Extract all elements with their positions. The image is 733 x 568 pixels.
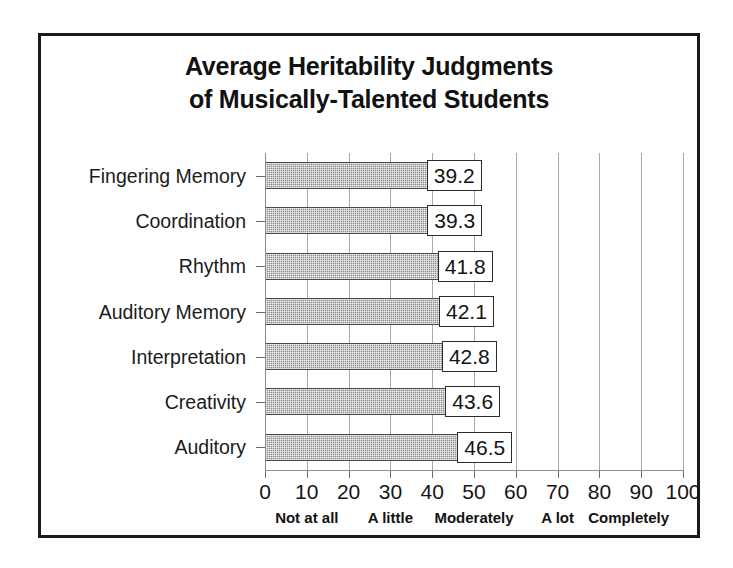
bar-row: 46.5: [265, 425, 683, 470]
anchor-label: A little: [368, 509, 413, 526]
y-axis-tick: [256, 402, 265, 403]
gridline: [683, 153, 684, 470]
y-axis-tick: [256, 266, 265, 267]
category-label: Interpretation: [131, 346, 246, 368]
bar[interactable]: [265, 298, 441, 325]
chart-title-line-1: Average Heritability Judgments: [41, 50, 697, 83]
bar-value-label: 42.1: [439, 296, 494, 327]
y-axis-tick: [256, 357, 265, 358]
x-axis-tick-label: 100: [665, 480, 700, 504]
bar-row: 41.8: [265, 244, 683, 289]
x-axis-tick: [390, 471, 391, 478]
chart-title-line-2: of Musically-Talented Students: [41, 83, 697, 116]
x-axis-tick: [516, 471, 517, 478]
category-label: Auditory Memory: [99, 301, 246, 323]
bar-row: 43.6: [265, 379, 683, 424]
bar[interactable]: [265, 162, 429, 189]
anchor-label: Moderately: [434, 509, 513, 526]
y-axis-line: [265, 153, 266, 471]
x-axis-tick: [558, 471, 559, 478]
bar-value-label: 43.6: [445, 386, 500, 417]
bar[interactable]: [265, 434, 459, 461]
x-axis-tick: [432, 471, 433, 478]
x-axis-tick: [474, 471, 475, 478]
chart-frame: Average Heritability Judgments of Musica…: [38, 33, 700, 538]
x-axis-tick-label: 0: [259, 480, 271, 504]
x-axis-tick-label: 50: [462, 480, 485, 504]
x-axis-tick: [307, 471, 308, 478]
bar-row: 39.2: [265, 153, 683, 198]
bar[interactable]: [265, 253, 440, 280]
bar-value-label: 41.8: [438, 251, 493, 282]
anchor-label: Completely: [588, 509, 669, 526]
bar-row: 39.3: [265, 198, 683, 243]
y-axis-tick: [256, 312, 265, 313]
bar[interactable]: [265, 343, 444, 370]
bar-row: 42.8: [265, 334, 683, 379]
category-label: Creativity: [165, 391, 246, 413]
bar-row: 42.1: [265, 289, 683, 334]
bar-value-label: 42.8: [442, 341, 497, 372]
bar-value-label: 39.3: [427, 205, 482, 236]
anchor-label: Not at all: [275, 509, 338, 526]
category-label: Rhythm: [179, 255, 246, 277]
x-axis-tick-label: 30: [379, 480, 402, 504]
x-axis-tick: [349, 471, 350, 478]
x-axis-tick-label: 70: [546, 480, 569, 504]
x-axis-tick: [265, 471, 266, 478]
x-axis-tick-label: 60: [504, 480, 527, 504]
bar[interactable]: [265, 207, 429, 234]
plot-area: 39.239.341.842.142.843.646.5: [265, 153, 683, 470]
bar-value-label: 46.5: [457, 432, 512, 463]
y-axis-tick: [256, 221, 265, 222]
x-axis-tick: [641, 471, 642, 478]
anchor-label: A lot: [541, 509, 574, 526]
x-axis-tick: [599, 471, 600, 478]
category-label: Coordination: [135, 210, 246, 232]
category-label: Fingering Memory: [89, 165, 246, 187]
x-axis-tick-label: 40: [421, 480, 444, 504]
x-axis-tick-label: 20: [337, 480, 360, 504]
x-axis-tick-label: 10: [295, 480, 318, 504]
x-axis-tick-label: 90: [630, 480, 653, 504]
chart-title: Average Heritability Judgments of Musica…: [41, 50, 697, 116]
x-axis-tick: [683, 471, 684, 478]
y-axis-tick: [256, 176, 265, 177]
category-label: Auditory: [174, 436, 246, 458]
bar-value-label: 39.2: [427, 160, 482, 191]
bar[interactable]: [265, 388, 447, 415]
x-axis-tick-label: 80: [588, 480, 611, 504]
y-axis-tick: [256, 447, 265, 448]
